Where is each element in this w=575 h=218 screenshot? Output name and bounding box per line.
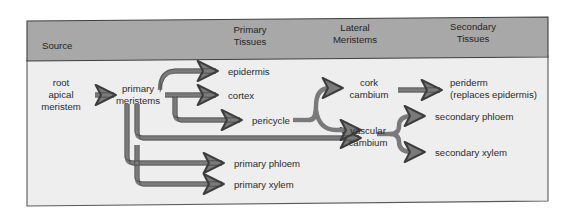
header-label-source: Source <box>42 40 72 51</box>
header-label-lateral-meristems: Lateral <box>340 22 369 33</box>
header-label-primary-tissues-2: Tissues <box>234 36 267 47</box>
node-primary-xylem: primary xylem <box>234 179 294 190</box>
node-root-apical-meristem-line1: root <box>53 77 70 88</box>
header-label-primary-tissues: Primary <box>233 24 266 35</box>
node-cortex: cortex <box>228 90 254 101</box>
node-secondary-xylem: secondary xylem <box>435 147 507 158</box>
node-root-apical-meristem-line3: meristem <box>41 101 80 112</box>
header-label-lateral-meristems-2: Meristems <box>333 34 377 45</box>
node-cork-cambium-line1: cork <box>360 77 378 88</box>
node-cork-cambium-line2: cambium <box>350 89 389 100</box>
header-label-secondary-tissues: Secondary <box>450 21 496 32</box>
node-primary-meristems-line2: meristems <box>116 95 160 106</box>
diagram-page: Source Primary Tissues Lateral Meristems… <box>0 0 575 218</box>
node-vascular-cambium-line1: vascular <box>350 125 387 136</box>
node-epidermis: epidermis <box>228 66 270 77</box>
header-label-secondary-tissues-2: Tissues <box>457 33 490 44</box>
node-periderm-line2: (replaces epidermis) <box>450 89 537 100</box>
node-secondary-phloem: secondary phloem <box>435 111 513 122</box>
node-vascular-cambium-line2: cambium <box>349 137 388 148</box>
node-primary-phloem: primary phloem <box>234 158 300 169</box>
node-root-apical-meristem-line2: apical <box>48 89 73 100</box>
tissue-development-diagram: Source Primary Tissues Lateral Meristems… <box>0 0 575 218</box>
node-periderm-line1: periderm <box>450 77 488 88</box>
node-primary-meristems-line1: primary <box>122 83 154 94</box>
node-pericycle: pericycle <box>252 115 290 126</box>
